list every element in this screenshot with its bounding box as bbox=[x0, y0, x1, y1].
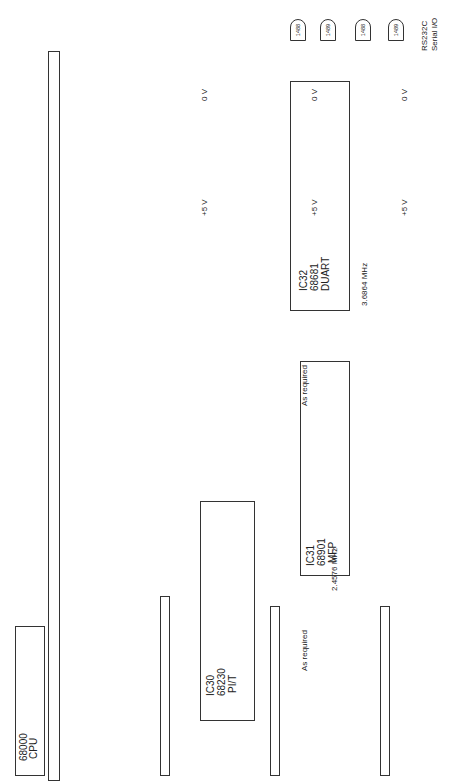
cpu-sub: CPU bbox=[28, 738, 39, 759]
ic32-crystal-label: 3.6864 MHz bbox=[360, 263, 369, 306]
rs232-sub: Serial I/O bbox=[430, 18, 439, 51]
bus-bar-ic31 bbox=[270, 606, 280, 776]
ic32-note: As required bbox=[300, 365, 309, 406]
ic32-func: DUART bbox=[320, 257, 331, 291]
ic30-func: PI/T bbox=[227, 675, 238, 693]
ic30-vcc-rail: +5 V bbox=[200, 199, 209, 216]
ic32-vss-rail: 0 V bbox=[400, 89, 409, 101]
ic31-vcc-rail: +5 V bbox=[310, 199, 319, 216]
ic30-name: IC30 bbox=[205, 675, 216, 696]
bus-bar-ic30 bbox=[160, 596, 170, 776]
rs232-label: RS232C bbox=[420, 21, 429, 51]
ic32-vcc-rail: +5 V bbox=[400, 199, 409, 216]
ic31-name: IC31 bbox=[305, 545, 316, 566]
ic31-vss-rail: 0 V bbox=[310, 89, 319, 101]
ic30-vss-rail: 0 V bbox=[200, 89, 209, 101]
ic31-note: As required bbox=[300, 630, 309, 671]
ic30-part: 68230 bbox=[216, 668, 227, 696]
gate-1488-txda: 1488 bbox=[290, 19, 306, 41]
bus-bar-main bbox=[48, 51, 60, 781]
ic31-crystal-label: 2.4576 MHz bbox=[330, 548, 339, 591]
gate-1489-rxdb: 1489 bbox=[388, 19, 404, 41]
ic32-name: IC32 bbox=[298, 270, 309, 291]
gate-1489-rxda: 1489 bbox=[320, 19, 336, 41]
schematic-stage: 68000 CPU IC30 68230 PI/T IC31 68901 MFP… bbox=[0, 0, 453, 781]
ic31-part: 68901 bbox=[316, 538, 327, 566]
gate-1488-txdb: 1488 bbox=[355, 19, 371, 41]
schematic-canvas: 68000 CPU IC30 68230 PI/T IC31 68901 MFP… bbox=[0, 0, 453, 781]
ic32-part: 68681 bbox=[309, 263, 320, 291]
bus-bar-ic32 bbox=[380, 606, 390, 776]
